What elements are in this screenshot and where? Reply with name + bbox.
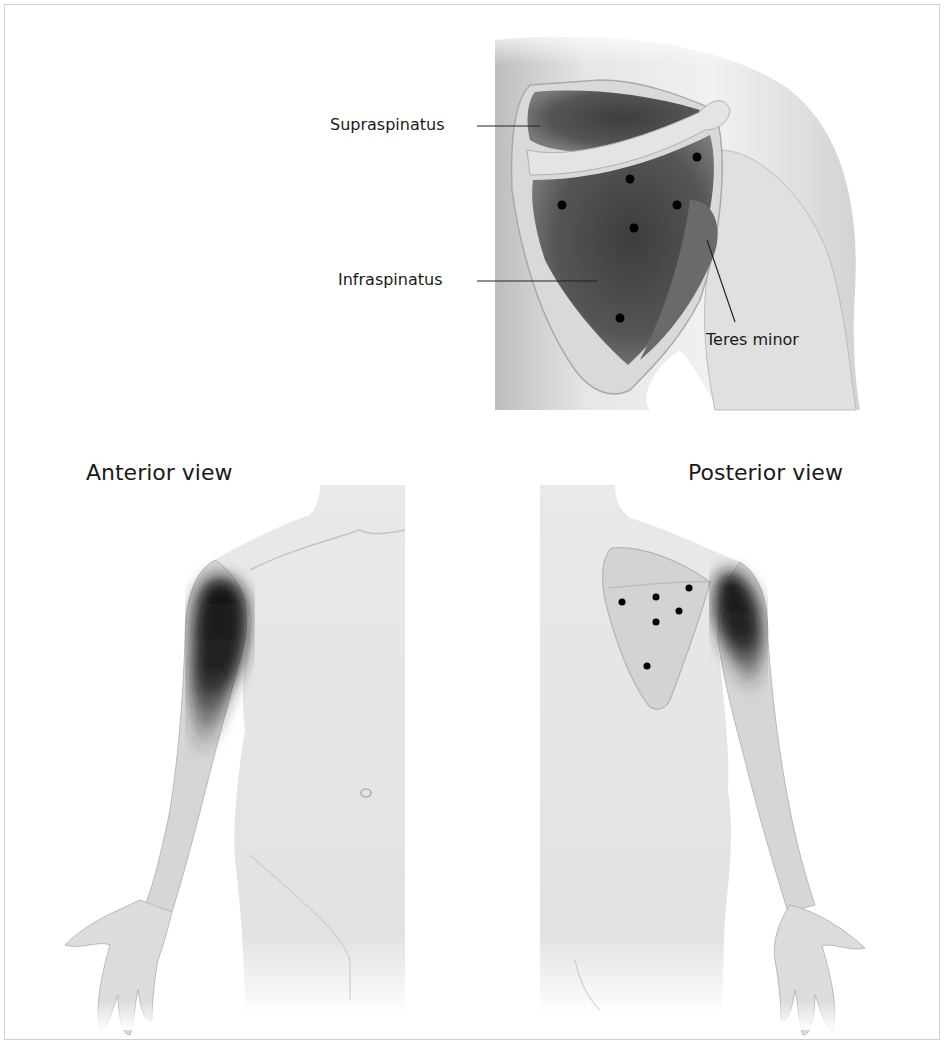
anterior-body [65,485,405,1035]
posterior-body [540,485,865,1035]
trigger-point-dot [673,201,682,210]
trigger-point-dot [676,608,683,615]
anatomy-illustration [0,0,946,1047]
trigger-point-dot [558,201,567,210]
anterior-view-title: Anterior view [86,462,232,484]
trigger-point-dot [653,619,660,626]
trigger-point-dot [686,585,693,592]
teres-minor-label: Teres minor [706,332,799,348]
supraspinatus-label: Supraspinatus [330,117,444,133]
shoulder-closeup [477,25,880,410]
trigger-point-dot [653,594,660,601]
posterior-view-title: Posterior view [688,462,843,484]
trigger-point-dot [630,224,639,233]
trigger-point-dot [693,153,702,162]
trigger-point-dot [644,663,651,670]
trigger-point-dot [616,314,625,323]
trigger-point-dot [626,175,635,184]
infraspinatus-label: Infraspinatus [338,272,443,288]
trigger-point-dot [619,599,626,606]
